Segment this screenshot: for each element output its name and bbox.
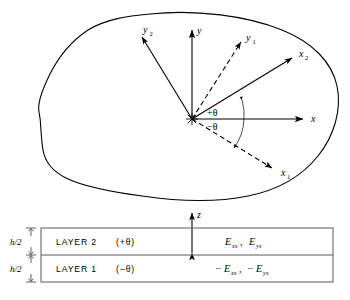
- axis-y-label: y: [196, 25, 202, 36]
- axis-x2-subscript: 2: [305, 54, 308, 61]
- svg-text:E: E: [255, 263, 262, 274]
- plate-outline: [39, 12, 339, 200]
- minus-theta-label: −θ: [207, 121, 218, 132]
- axis-x-label: x: [310, 113, 316, 124]
- axis-y1-subscript: 1: [253, 38, 256, 45]
- layer-2-angle-label: (+θ): [116, 237, 135, 247]
- svg-text:xs: xs: [231, 242, 238, 249]
- origin-star-marker: [186, 113, 198, 125]
- svg-text:E: E: [248, 236, 255, 247]
- axis-y1-label: y: [245, 32, 251, 43]
- svg-text:ys: ys: [262, 269, 269, 276]
- layer-1-name-label: LAYER 1: [56, 264, 97, 274]
- layer-2-name-label: LAYER 2: [56, 237, 97, 247]
- thickness-dimension-group: [26, 228, 36, 282]
- minus-theta-arc: [234, 119, 244, 148]
- axis-y2-subscript: 2: [150, 30, 153, 37]
- plus-theta-arc: [242, 100, 244, 119]
- axis-x2-label: x: [298, 48, 304, 59]
- svg-text:E: E: [224, 236, 231, 247]
- layer-1-modulus-label: − E xs , − E ys: [215, 263, 269, 276]
- svg-text:−: −: [247, 263, 254, 274]
- axis-y2-label: y: [142, 24, 148, 35]
- axis-y2-line: [142, 37, 192, 119]
- axis-x1-subscript: 1: [287, 173, 290, 180]
- layer-1-thickness-label: h/2: [10, 264, 22, 274]
- layer-1-angle-label: (−θ): [116, 264, 135, 274]
- svg-text:E: E: [223, 263, 230, 274]
- laminate-diagram: y x y 2 x 2 y 1 x 1 +θ −θ: [0, 0, 350, 300]
- svg-text:−: −: [215, 263, 222, 274]
- svg-text:ys: ys: [255, 242, 262, 249]
- axis-z-label: z: [196, 209, 201, 220]
- svg-text:,: ,: [240, 236, 243, 247]
- svg-text:xs: xs: [230, 269, 237, 276]
- svg-text:,: ,: [239, 263, 242, 274]
- figure-root: y x y 2 x 2 y 1 x 1 +θ −θ: [0, 0, 350, 300]
- plus-theta-label: +θ: [207, 107, 218, 118]
- axis-x1-line: [192, 119, 272, 168]
- layer-2-modulus-label: E xs , E ys: [224, 236, 262, 249]
- layer-2-thickness-label: h/2: [10, 237, 22, 247]
- axis-x1-label: x: [280, 167, 286, 178]
